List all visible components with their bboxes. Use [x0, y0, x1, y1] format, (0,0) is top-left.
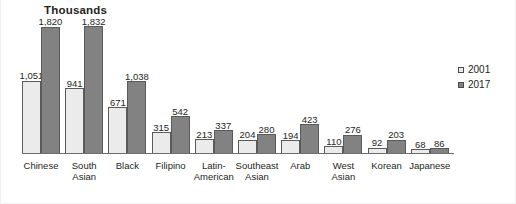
x-axis-baseline: [22, 153, 454, 154]
chart-legend: 2001 2017: [458, 64, 490, 90]
bar-2017-korean[interactable]: 203: [387, 140, 406, 154]
bar-value-label: 86: [434, 139, 445, 149]
bar-group: 1,0511,820: [22, 26, 60, 154]
plot-area: 1,0511,8209411,8326711,03831554221333720…: [22, 26, 452, 154]
bar-group: 92203: [368, 26, 406, 154]
bar-value-label: 110: [326, 137, 341, 147]
bar-value-label: 203: [388, 130, 404, 140]
bar-2001-filipino[interactable]: 315: [152, 132, 171, 154]
bar-value-label: 423: [302, 115, 318, 125]
bar-value-label: 315: [153, 123, 169, 133]
bar-value-label: 276: [345, 125, 361, 135]
legend-swatch-2001-icon: [458, 67, 464, 73]
legend-item-2017[interactable]: 2017: [458, 79, 490, 90]
bar-value-label: 1,051: [20, 71, 44, 81]
bar-value-label: 542: [172, 107, 188, 117]
bar-group: 110276: [324, 26, 362, 154]
bar-value-label: 194: [283, 131, 299, 141]
bar-group: 315542: [152, 26, 190, 154]
bar-value-label: 337: [215, 121, 231, 131]
bar-2017-south-asian[interactable]: 1,832: [84, 26, 103, 154]
bar-group: 194423: [281, 26, 319, 154]
bar-group: 6711,038: [108, 26, 146, 154]
bar-value-label: 68: [415, 140, 426, 150]
bar-group: 6886: [411, 26, 449, 154]
bar-2017-west-asian[interactable]: 276: [343, 135, 362, 154]
bar-2017-chinese[interactable]: 1,820: [41, 27, 60, 154]
bar-2001-south-asian[interactable]: 941: [65, 88, 84, 154]
bar-2001-southeast-asian[interactable]: 204: [238, 140, 257, 154]
bar-group: 213337: [195, 26, 233, 154]
bar-value-label: 1,038: [125, 72, 149, 82]
bar-value-label: 1,820: [39, 17, 63, 27]
bar-chart: Thousands 2001 2017 1,0511,8209411,83267…: [0, 0, 516, 204]
bar-value-label: 280: [259, 125, 275, 135]
bar-group: 204280: [238, 26, 276, 154]
legend-swatch-2017-icon: [458, 82, 464, 88]
chart-title: Thousands: [44, 4, 107, 16]
legend-label-2017: 2017: [468, 79, 490, 90]
bar-2017-arab[interactable]: 423: [300, 124, 319, 154]
bar-2017-filipino[interactable]: 542: [171, 116, 190, 154]
bar-2001-arab[interactable]: 194: [281, 140, 300, 154]
bar-2001-black[interactable]: 671: [108, 107, 127, 154]
bar-value-label: 204: [240, 130, 256, 140]
x-axis-label-japanese: Japanese: [399, 160, 461, 171]
bar-value-label: 941: [67, 79, 83, 89]
legend-label-2001: 2001: [468, 64, 490, 75]
bar-value-label: 1,832: [82, 17, 106, 27]
bar-2001-latin-american[interactable]: 213: [195, 139, 214, 154]
bar-group: 9411,832: [65, 26, 103, 154]
bar-value-label: 213: [196, 130, 212, 140]
bar-2001-chinese[interactable]: 1,051: [22, 81, 41, 154]
bar-2017-latin-american[interactable]: 337: [214, 130, 233, 154]
frame-bottom-border: [0, 203, 516, 204]
bar-value-label: 92: [372, 138, 383, 148]
legend-item-2001[interactable]: 2001: [458, 64, 490, 75]
bar-2017-southeast-asian[interactable]: 280: [257, 134, 276, 154]
bar-value-label: 671: [110, 98, 126, 108]
frame-left-border: [0, 0, 1, 204]
bar-2017-black[interactable]: 1,038: [127, 81, 146, 154]
